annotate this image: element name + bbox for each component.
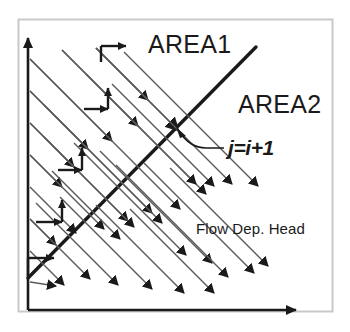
flow-dependence-label: Flow Dep. Head <box>196 220 305 237</box>
boundary-equation-label: j=i+1 <box>228 136 274 160</box>
area1-label: AREA1 <box>148 30 231 59</box>
flow-dependence-figure: AREA1 AREA2 j=i+1 Flow Dep. Head <box>0 0 350 332</box>
area2-label: AREA2 <box>238 90 321 119</box>
figure-frame <box>19 20 333 312</box>
